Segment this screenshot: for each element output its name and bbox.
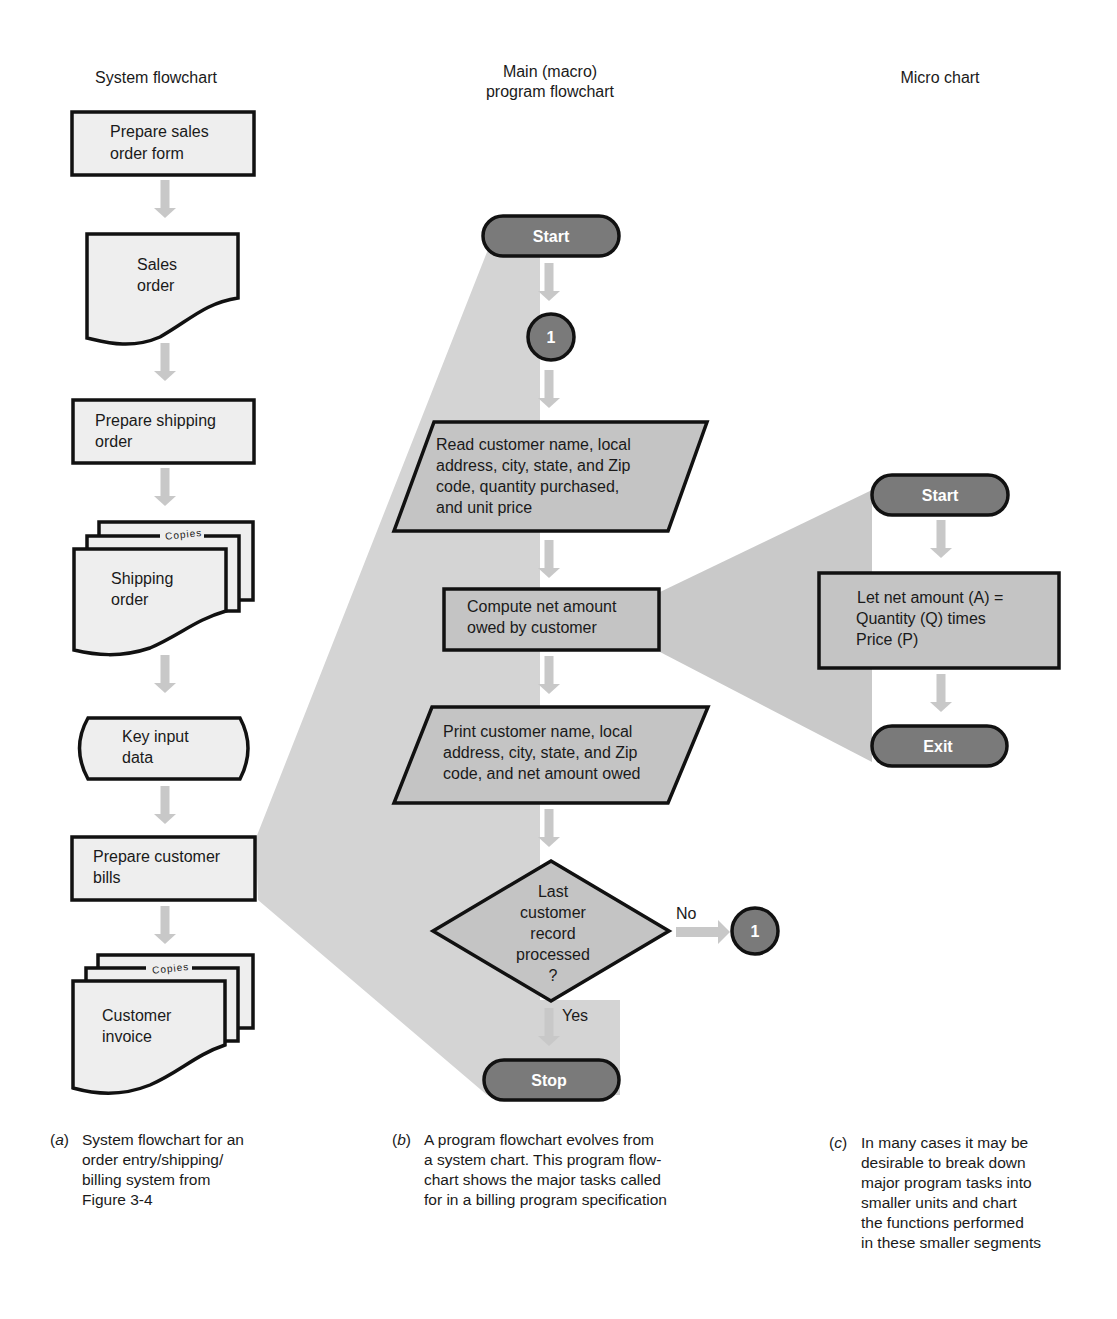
flow-arrow-icon bbox=[154, 343, 176, 381]
caption-a-text: System flowchart for an order entry/ship… bbox=[82, 1130, 244, 1210]
system-step-shipping-order-multi-document: Copies Shipping order bbox=[74, 522, 253, 655]
system-step-prepare-customer-bills: Prepare customer bills bbox=[72, 837, 255, 900]
flow-arrow-icon bbox=[154, 786, 176, 824]
system-step-prepare-sales-order-form: Prepare sales order form bbox=[72, 112, 254, 175]
step-label-line: Compute net amount bbox=[467, 598, 617, 615]
decision-label-line: processed bbox=[516, 946, 590, 963]
flow-arrow-icon bbox=[538, 263, 560, 301]
caption-a-tag: (a) bbox=[50, 1130, 69, 1150]
step-label-line: Prepare sales bbox=[110, 123, 209, 140]
step-label-line: order bbox=[137, 277, 175, 294]
step-label-line: code, and net amount owed bbox=[443, 765, 640, 782]
main-compute-step: Compute net amount owed by customer bbox=[444, 589, 659, 650]
flow-arrow-icon bbox=[154, 180, 176, 218]
step-label-line: order form bbox=[110, 145, 184, 162]
caption-c-tag: (c) bbox=[829, 1133, 847, 1153]
micro-process-step: Let net amount (A) = Quantity (Q) times … bbox=[819, 573, 1059, 668]
step-label-line: Customer bbox=[102, 1007, 172, 1024]
flow-arrow-icon bbox=[154, 468, 176, 506]
flow-arrow-icon bbox=[538, 656, 560, 694]
step-label-line: data bbox=[122, 749, 153, 766]
caption-b-tag: (b) bbox=[392, 1130, 411, 1150]
main-print-output-step: Print customer name, local address, city… bbox=[394, 707, 708, 803]
flow-arrow-icon bbox=[154, 655, 176, 693]
terminal-label: Exit bbox=[923, 738, 953, 755]
step-label-line: order bbox=[95, 433, 133, 450]
flow-arrow-icon bbox=[538, 809, 560, 847]
system-step-prepare-shipping-order: Prepare shipping order bbox=[73, 400, 254, 463]
flow-arrow-icon bbox=[538, 370, 560, 408]
micro-start-terminal: Start bbox=[872, 475, 1008, 515]
step-label-line: Let net amount (A) = bbox=[857, 589, 1003, 606]
main-start-terminal: Start bbox=[483, 216, 619, 256]
main-stop-terminal: Stop bbox=[484, 1060, 619, 1100]
step-label-line: address, city, state, and Zip bbox=[443, 744, 638, 761]
step-label-line: address, city, state, and Zip bbox=[436, 457, 631, 474]
step-label-line: Price (P) bbox=[856, 631, 918, 648]
step-label-line: code, quantity purchased, bbox=[436, 478, 619, 495]
decision-label-line: customer bbox=[520, 904, 586, 921]
step-label-line: Key input bbox=[122, 728, 189, 745]
step-label-line: bills bbox=[93, 869, 121, 886]
micro-exit-terminal: Exit bbox=[872, 726, 1007, 766]
decision-label-line: record bbox=[530, 925, 575, 942]
system-step-sales-order-document: Sales order bbox=[87, 234, 238, 344]
no-branch-arrow-icon bbox=[676, 920, 730, 944]
no-branch-label: No bbox=[676, 905, 697, 922]
step-label-line: invoice bbox=[102, 1028, 152, 1045]
decision-label-line: ? bbox=[549, 967, 558, 984]
main-read-input-step: Read customer name, local address, city,… bbox=[394, 422, 707, 531]
system-step-customer-invoice-multi-document: Copies Customer invoice bbox=[73, 955, 253, 1093]
flow-arrow-icon bbox=[154, 906, 176, 944]
system-step-key-input-data: Key input data bbox=[80, 718, 249, 779]
yes-branch-label: Yes bbox=[562, 1007, 588, 1024]
step-label-line: and unit price bbox=[436, 499, 532, 516]
connector-label: 1 bbox=[751, 923, 760, 940]
connector-label: 1 bbox=[547, 329, 556, 346]
caption-c-text: In many cases it may be desirable to bre… bbox=[861, 1133, 1041, 1253]
step-label-line: owed by customer bbox=[467, 619, 598, 636]
flow-arrow-icon bbox=[930, 520, 952, 558]
main-connector-1: 1 bbox=[528, 314, 574, 360]
decision-label-line: Last bbox=[538, 883, 569, 900]
flowchart-diagram: Prepare sales order form Sales order Pre… bbox=[0, 0, 1117, 1319]
terminal-label: Stop bbox=[531, 1072, 567, 1089]
step-label-line: Quantity (Q) times bbox=[856, 610, 986, 627]
step-label-line: Print customer name, local bbox=[443, 723, 632, 740]
step-label-line: Prepare customer bbox=[93, 848, 221, 865]
step-label-line: order bbox=[111, 591, 149, 608]
step-label-line: Read customer name, local bbox=[436, 436, 631, 453]
terminal-label: Start bbox=[922, 487, 959, 504]
step-label-line: Prepare shipping bbox=[95, 412, 216, 429]
flow-arrow-icon bbox=[930, 674, 952, 712]
step-label-line: Shipping bbox=[111, 570, 173, 587]
main-loop-connector-1: 1 bbox=[732, 908, 778, 954]
flow-arrow-icon bbox=[538, 540, 560, 578]
terminal-label: Start bbox=[533, 228, 570, 245]
step-label-line: Sales bbox=[137, 256, 177, 273]
caption-b-text: A program flowchart evolves from a syste… bbox=[424, 1130, 667, 1210]
